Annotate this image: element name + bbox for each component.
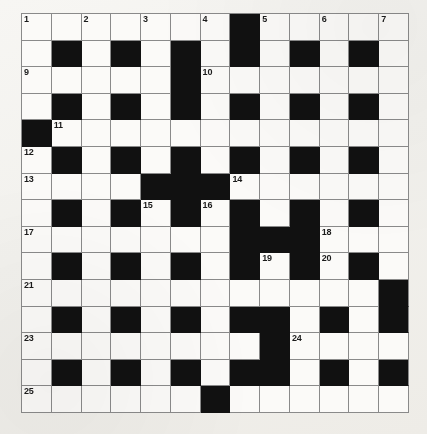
- letter-cell[interactable]: [201, 147, 231, 174]
- letter-cell[interactable]: [290, 120, 320, 147]
- letter-cell[interactable]: [349, 333, 379, 360]
- letter-cell[interactable]: [141, 253, 171, 280]
- letter-cell[interactable]: [379, 200, 409, 227]
- letter-cell[interactable]: [141, 360, 171, 387]
- letter-cell[interactable]: [260, 386, 290, 413]
- letter-cell[interactable]: [82, 386, 112, 413]
- letter-cell[interactable]: [201, 120, 231, 147]
- letter-cell[interactable]: [22, 41, 52, 68]
- letter-cell[interactable]: [320, 280, 350, 307]
- letter-cell[interactable]: [349, 67, 379, 94]
- letter-cell[interactable]: [201, 253, 231, 280]
- letter-cell[interactable]: [141, 227, 171, 254]
- letter-cell[interactable]: [52, 174, 82, 201]
- letter-cell[interactable]: 24: [290, 333, 320, 360]
- letter-cell[interactable]: [82, 307, 112, 334]
- letter-cell[interactable]: 2: [82, 14, 112, 41]
- letter-cell[interactable]: 16: [201, 200, 231, 227]
- letter-cell[interactable]: 15: [141, 200, 171, 227]
- letter-cell[interactable]: [52, 280, 82, 307]
- letter-cell[interactable]: [260, 200, 290, 227]
- letter-cell[interactable]: [290, 360, 320, 387]
- letter-cell[interactable]: 10: [201, 67, 231, 94]
- letter-cell[interactable]: [201, 360, 231, 387]
- letter-cell[interactable]: [141, 333, 171, 360]
- letter-cell[interactable]: [82, 200, 112, 227]
- letter-cell[interactable]: 5: [260, 14, 290, 41]
- letter-cell[interactable]: [201, 307, 231, 334]
- letter-cell[interactable]: [349, 307, 379, 334]
- letter-cell[interactable]: [52, 14, 82, 41]
- crossword-grid[interactable]: 12345679101112131415161718192021232425: [21, 13, 409, 413]
- letter-cell[interactable]: [290, 280, 320, 307]
- letter-cell[interactable]: [230, 67, 260, 94]
- letter-cell[interactable]: [111, 227, 141, 254]
- letter-cell[interactable]: [260, 41, 290, 68]
- letter-cell[interactable]: [290, 67, 320, 94]
- letter-cell[interactable]: [141, 307, 171, 334]
- letter-cell[interactable]: [379, 41, 409, 68]
- letter-cell[interactable]: [141, 94, 171, 121]
- letter-cell[interactable]: [230, 120, 260, 147]
- letter-cell[interactable]: [201, 227, 231, 254]
- letter-cell[interactable]: [379, 253, 409, 280]
- letter-cell[interactable]: [379, 120, 409, 147]
- letter-cell[interactable]: [230, 333, 260, 360]
- letter-cell[interactable]: [320, 147, 350, 174]
- letter-cell[interactable]: 11: [52, 120, 82, 147]
- letter-cell[interactable]: [82, 253, 112, 280]
- letter-cell[interactable]: [141, 120, 171, 147]
- letter-cell[interactable]: [201, 333, 231, 360]
- letter-cell[interactable]: [290, 307, 320, 334]
- letter-cell[interactable]: [349, 227, 379, 254]
- letter-cell[interactable]: [349, 120, 379, 147]
- letter-cell[interactable]: [349, 360, 379, 387]
- letter-cell[interactable]: [320, 386, 350, 413]
- letter-cell[interactable]: 23: [22, 333, 52, 360]
- letter-cell[interactable]: [260, 147, 290, 174]
- letter-cell[interactable]: [349, 386, 379, 413]
- letter-cell[interactable]: [349, 280, 379, 307]
- letter-cell[interactable]: [320, 41, 350, 68]
- letter-cell[interactable]: [52, 386, 82, 413]
- letter-cell[interactable]: [379, 174, 409, 201]
- letter-cell[interactable]: 19: [260, 253, 290, 280]
- letter-cell[interactable]: [82, 41, 112, 68]
- letter-cell[interactable]: [171, 14, 201, 41]
- letter-cell[interactable]: [22, 360, 52, 387]
- letter-cell[interactable]: [171, 280, 201, 307]
- letter-cell[interactable]: 12: [22, 147, 52, 174]
- letter-cell[interactable]: [82, 227, 112, 254]
- letter-cell[interactable]: [141, 280, 171, 307]
- letter-cell[interactable]: [111, 14, 141, 41]
- letter-cell[interactable]: [82, 333, 112, 360]
- letter-cell[interactable]: 14: [230, 174, 260, 201]
- letter-cell[interactable]: [111, 67, 141, 94]
- letter-cell[interactable]: [379, 227, 409, 254]
- letter-cell[interactable]: [349, 14, 379, 41]
- letter-cell[interactable]: [171, 386, 201, 413]
- letter-cell[interactable]: [260, 67, 290, 94]
- letter-cell[interactable]: [171, 227, 201, 254]
- letter-cell[interactable]: [111, 386, 141, 413]
- letter-cell[interactable]: [171, 333, 201, 360]
- letter-cell[interactable]: 3: [141, 14, 171, 41]
- letter-cell[interactable]: [290, 386, 320, 413]
- letter-cell[interactable]: [22, 200, 52, 227]
- letter-cell[interactable]: [82, 67, 112, 94]
- letter-cell[interactable]: 17: [22, 227, 52, 254]
- letter-cell[interactable]: 6: [320, 14, 350, 41]
- letter-cell[interactable]: [290, 174, 320, 201]
- letter-cell[interactable]: [260, 280, 290, 307]
- letter-cell[interactable]: [82, 147, 112, 174]
- letter-cell[interactable]: [22, 94, 52, 121]
- letter-cell[interactable]: [260, 94, 290, 121]
- letter-cell[interactable]: [22, 307, 52, 334]
- crossword-grid-container[interactable]: 12345679101112131415161718192021232425: [21, 13, 409, 413]
- letter-cell[interactable]: 21: [22, 280, 52, 307]
- letter-cell[interactable]: 20: [320, 253, 350, 280]
- letter-cell[interactable]: [260, 174, 290, 201]
- letter-cell[interactable]: [379, 386, 409, 413]
- letter-cell[interactable]: [52, 227, 82, 254]
- letter-cell[interactable]: [52, 67, 82, 94]
